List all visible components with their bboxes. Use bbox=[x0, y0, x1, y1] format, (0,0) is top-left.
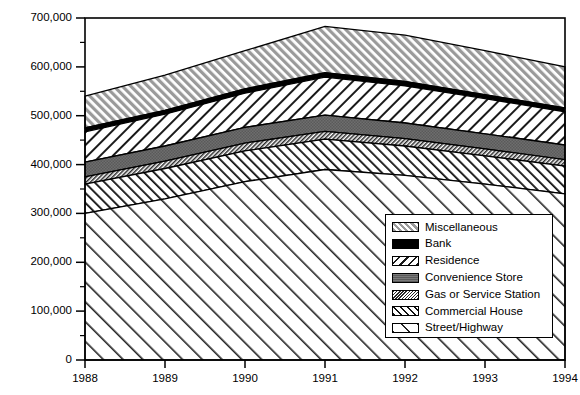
y-tick-label-300000: 300,000 bbox=[0, 207, 72, 219]
legend-label-commercial-house: Commercial House bbox=[425, 306, 523, 318]
legend-label-street-highway: Street/Highway bbox=[425, 322, 503, 334]
legend-label-miscellaneous: Miscellaneous bbox=[425, 222, 498, 234]
x-tick-label-1989: 1989 bbox=[135, 373, 195, 385]
legend-swatch-convenience-store-icon bbox=[392, 273, 419, 283]
x-axis-ticks bbox=[85, 360, 565, 368]
legend-label-gas-or-service-station: Gas or Service Station bbox=[425, 289, 540, 301]
legend-item-residence: Residence bbox=[392, 253, 552, 270]
legend-item-bank: Bank bbox=[392, 236, 552, 253]
y-tick-label-700000: 700,000 bbox=[0, 12, 72, 24]
x-tick-label-1991: 1991 bbox=[295, 373, 355, 385]
x-tick-label-1994: 1994 bbox=[535, 373, 580, 385]
y-tick-label-0: 0 bbox=[0, 354, 72, 366]
legend-item-commercial-house: Commercial House bbox=[392, 303, 552, 320]
chart-legend: Miscellaneous Bank Residence Convenience… bbox=[385, 214, 553, 338]
y-tick-label-100000: 100,000 bbox=[0, 305, 72, 317]
y-tick-label-400000: 400,000 bbox=[0, 159, 72, 171]
legend-label-convenience-store: Convenience Store bbox=[425, 272, 523, 284]
x-tick-label-1990: 1990 bbox=[215, 373, 275, 385]
legend-swatch-commercial-house-icon bbox=[392, 306, 419, 316]
legend-swatch-bank-icon bbox=[392, 239, 419, 249]
x-tick-label-1992: 1992 bbox=[375, 373, 435, 385]
legend-item-convenience-store: Convenience Store bbox=[392, 269, 552, 286]
legend-swatch-gas-or-service-station-icon bbox=[392, 290, 419, 300]
legend-item-street-highway: Street/Highway bbox=[392, 320, 552, 337]
legend-swatch-street-highway-icon bbox=[392, 323, 419, 333]
y-tick-label-500000: 500,000 bbox=[0, 110, 72, 122]
legend-label-bank: Bank bbox=[425, 238, 451, 250]
x-tick-label-1993: 1993 bbox=[455, 373, 515, 385]
x-tick-label-1988: 1988 bbox=[55, 373, 115, 385]
y-tick-label-600000: 600,000 bbox=[0, 61, 72, 73]
y-tick-label-200000: 200,000 bbox=[0, 256, 72, 268]
legend-item-gas-or-service-station: Gas or Service Station bbox=[392, 286, 552, 303]
legend-item-miscellaneous: Miscellaneous bbox=[392, 219, 552, 236]
legend-swatch-residence-icon bbox=[392, 256, 419, 266]
legend-label-residence: Residence bbox=[425, 255, 479, 267]
robberies-stacked-area-chart: Total Robberies bbox=[0, 0, 580, 395]
legend-swatch-miscellaneous-icon bbox=[392, 222, 419, 232]
